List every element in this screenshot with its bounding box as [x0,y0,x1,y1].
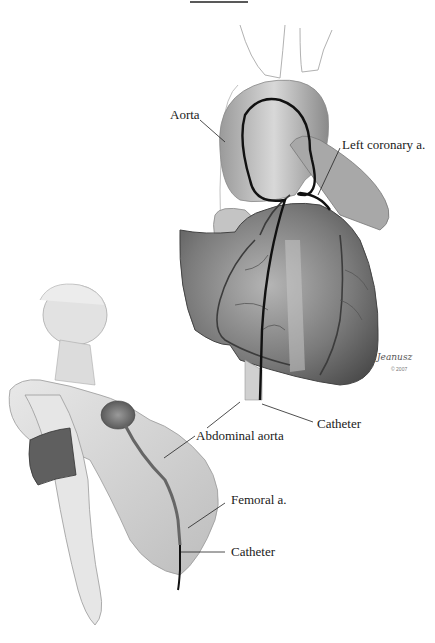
patient-figure [9,284,218,625]
label-femoral: Femoral a. [231,493,287,506]
illustration [0,0,435,643]
label-left-coronary: Left coronary a. [342,138,425,151]
catheterization-figure: Aorta Left coronary a. Catheter Abdomina… [0,0,435,643]
signature-year: © 2007 [391,366,407,372]
heart [180,203,378,385]
label-catheter-top: Catheter [317,417,361,430]
artist-signature: Jeanusz [377,352,412,362]
label-aorta: Aorta [170,108,200,121]
label-abdominal-aorta: Abdominal aorta [196,429,284,442]
label-catheter-bottom: Catheter [231,545,275,558]
small-heart [101,401,135,429]
